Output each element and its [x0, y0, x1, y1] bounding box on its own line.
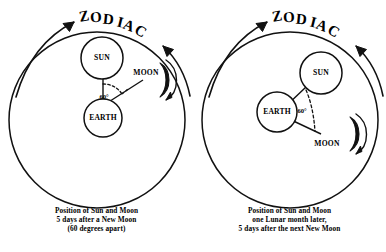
zodiac-letter-z: Z: [271, 7, 284, 24]
caption-left-line-3: (60 degrees apart): [0, 224, 193, 233]
zodiac-letter-d: D: [295, 11, 308, 28]
angle-arc-dashed: [306, 90, 315, 131]
zodiac-letter-d: D: [102, 11, 115, 28]
zodiac-title-curved: Z O D I A C: [78, 7, 150, 40]
zodiac-letter-o: O: [283, 9, 295, 25]
zodiac-letter-o: O: [90, 9, 102, 25]
caption-left-line-1: Position of Sun and Moon: [0, 206, 193, 215]
caption-right-line-3: 5 days after the next New Moon: [193, 224, 386, 233]
sun-label: SUN: [94, 53, 110, 62]
zodiac-diagram-page: Z O D I A C SUN EARTH 60°: [0, 0, 386, 252]
diagram-panel-left: Z O D I A C SUN EARTH 60°: [0, 0, 193, 252]
caption-right: Position of Sun and Moon one Lunar month…: [193, 206, 386, 234]
sun-label: SUN: [313, 68, 329, 77]
angle-label: 60°: [99, 93, 109, 100]
caption-left-line-2: 5 days after a New Moon: [0, 215, 193, 224]
orbit-arrow-left-shaft: [16, 22, 74, 97]
caption-right-line-2: one Lunar month later,: [193, 215, 386, 224]
earth-label: EARTH: [263, 107, 291, 116]
moon-motion-arrow-head: [166, 92, 172, 100]
orbit-arrow-left-shaft: [209, 22, 267, 97]
zodiac-letter-z: Z: [78, 7, 91, 24]
zodiac-title-curved: Z O D I A C: [271, 7, 343, 40]
earth-label: EARTH: [89, 113, 117, 122]
crescent-moon-icon: [350, 117, 359, 151]
moon-label: MOON: [133, 68, 159, 77]
angle-label: 60°: [297, 107, 307, 114]
earth-moon-line: [107, 80, 143, 103]
caption-left: Position of Sun and Moon 5 days after a …: [0, 206, 193, 234]
caption-right-line-1: Position of Sun and Moon: [193, 206, 386, 215]
diagram-panel-right: Z O D I A C SUN EARTH 60° MOON: [193, 0, 386, 252]
moon-label: MOON: [314, 139, 340, 148]
moon-motion-arrow-head: [356, 146, 362, 154]
